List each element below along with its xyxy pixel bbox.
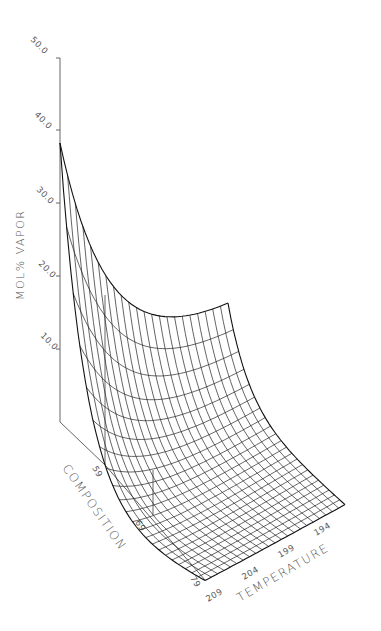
mesh-line [121, 295, 256, 553]
z-tick-40: 40.0 [33, 109, 55, 131]
temperature-tick-209: 209 [204, 586, 224, 604]
mesh-line [228, 303, 345, 505]
composition-tick-79: 79 [188, 574, 203, 589]
mesh-line [67, 227, 234, 349]
temperature-tick-194: 194 [312, 520, 332, 538]
composition-tick-59: 59 [90, 464, 105, 479]
mesh-line [114, 287, 250, 557]
temperature-tick-199: 199 [276, 542, 296, 560]
mesh-line [213, 309, 333, 512]
z-axis-title: MOL% VAPOR [14, 209, 27, 300]
mesh-line [198, 313, 320, 518]
mesh-line [68, 176, 212, 578]
z-ticks [56, 58, 60, 349]
z-tick-20: 20.0 [37, 258, 59, 280]
z-tick-30: 30.0 [35, 184, 57, 206]
z-tick-50: 50.0 [29, 34, 51, 56]
mesh-line [172, 480, 318, 560]
z-tick-labels: 50.0 40.0 30.0 20.0 10.0 [29, 34, 61, 352]
surface-plot: 50.0 40.0 30.0 20.0 10.0 MOL% VAPOR 59 6… [0, 0, 381, 631]
mesh-line [60, 143, 228, 317]
